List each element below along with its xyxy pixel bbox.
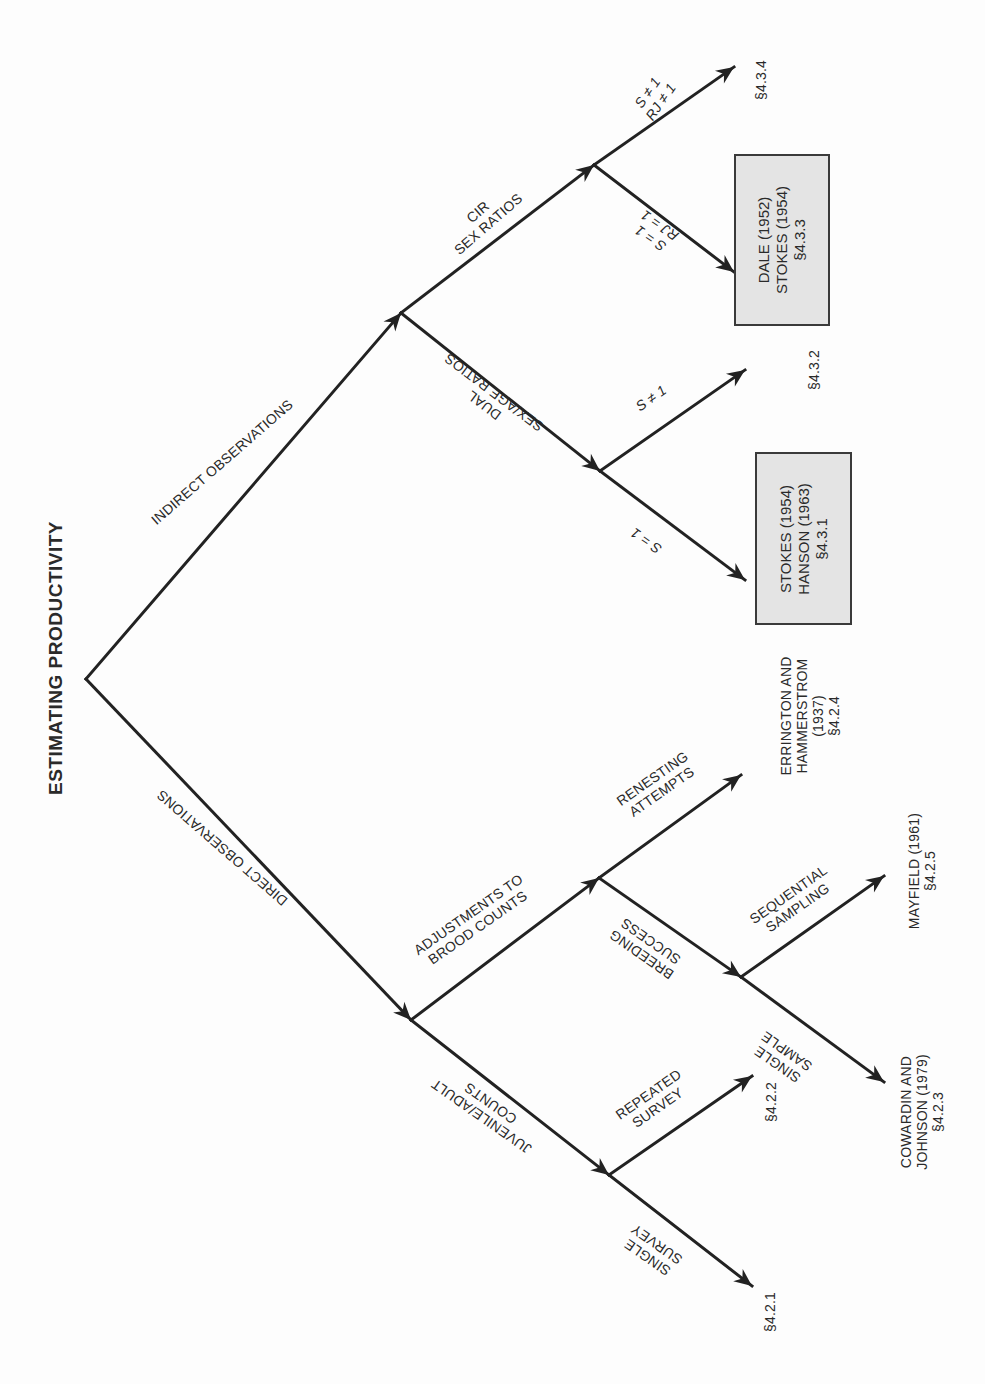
edge-dual-432 [600, 370, 745, 471]
reference-box-stokes-hanson: STOKES (1954) HANSON (1963) §4.3.1 [755, 452, 852, 625]
endpoint-section-4-2-2: §4.2.2 [763, 1082, 779, 1122]
endpoint-section-4-2-1: §4.2.1 [762, 1292, 778, 1332]
edge-breeding-423 [741, 977, 884, 1082]
endpoint-section-4-3-2: §4.3.2 [806, 350, 822, 390]
endpoint-mayfield: MAYFIELD (1961) §4.2.5 [906, 813, 938, 929]
endpoint-errington-hammerstrom: ERRINGTON AND HAMMERSTROM (1937) §4.2.4 [778, 656, 842, 775]
productivity-decision-tree: ESTIMATING PRODUCTIVITY INDIRECT OBSERVA… [0, 0, 985, 1384]
edge-root-direct [86, 679, 411, 1020]
diagram-title: ESTIMATING PRODUCTIVITY [45, 521, 67, 795]
endpoint-section-4-3-4: §4.3.4 [753, 60, 769, 100]
reference-box-dale-stokes: DALE (1952) STOKES (1954) §4.3.3 [734, 154, 830, 326]
reference-box-dale-stokes-text: DALE (1952) STOKES (1954) §4.3.3 [755, 186, 809, 294]
edge-dual-431 [600, 471, 745, 580]
endpoint-cowardin-johnson: COWARDIN AND JOHNSON (1979) §4.2.3 [898, 1054, 946, 1170]
edge-root-indirect [86, 313, 401, 679]
reference-box-stokes-hanson-text: STOKES (1954) HANSON (1963) §4.3.1 [777, 483, 831, 595]
